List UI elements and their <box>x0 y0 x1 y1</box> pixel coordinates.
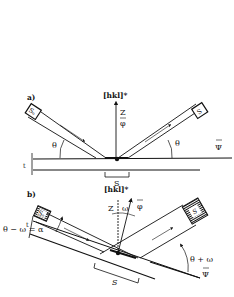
sample-top-surface <box>33 158 232 159</box>
theta-left-label: θ <box>52 141 57 150</box>
phi-label: φ <box>120 119 126 128</box>
theta-plus-omega-arc <box>181 245 188 272</box>
detector-box-b: S <box>182 198 208 224</box>
psi-label-b: Ψ <box>202 270 209 279</box>
panel-b-label: b) <box>27 190 36 199</box>
psi-label: Ψ <box>215 143 222 152</box>
normal-label-b: [hkl]* <box>104 185 129 194</box>
phi-label-b: φ <box>137 202 143 211</box>
theta-arc-right <box>168 140 172 158</box>
alpha-equation: θ − ω = α <box>3 225 44 234</box>
theta-plus-omega-label: θ + ω <box>190 255 214 264</box>
spot-width-marker <box>105 172 129 177</box>
panel-a: a) t S [hkl]* Z φ Sₒ <box>23 91 232 188</box>
incident-beam <box>28 107 106 158</box>
z-label-b: Z <box>108 204 114 213</box>
theta-arc-left <box>60 140 64 158</box>
panel-b: b) [hkl]* t S Z ω φ Sₒ <box>3 185 214 287</box>
panel-a-label: a) <box>27 93 35 102</box>
thickness-label: t <box>23 162 26 170</box>
normal-label: [hkl]* <box>103 91 128 100</box>
source-box-b: Sₒ <box>34 206 51 222</box>
spot-width-label-b: S <box>112 278 118 287</box>
diffracted-beam-b <box>100 205 196 258</box>
surface-extension-b <box>150 262 200 278</box>
omega-arc <box>112 213 135 216</box>
theta-right-label: θ <box>175 139 180 148</box>
source-box: Sₒ <box>25 104 41 120</box>
omega-label: ω <box>122 204 129 213</box>
z-label: Z <box>120 108 126 117</box>
diffracted-beam <box>118 104 204 158</box>
diffraction-geometry-diagram: a) t S [hkl]* Z φ Sₒ <box>0 0 234 297</box>
